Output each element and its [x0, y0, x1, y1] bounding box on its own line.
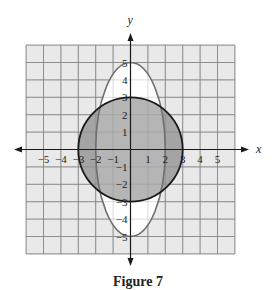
x-tick-label: 2	[163, 153, 169, 165]
y-tick-label: 5	[122, 57, 128, 69]
y-axis-label: y	[127, 13, 134, 27]
y-tick-label: 3	[122, 91, 128, 103]
x-tick-label: 4	[197, 153, 203, 165]
x-tick-label: 1	[145, 153, 151, 165]
y-tick-label: −3	[116, 196, 128, 208]
x-axis-right-arrow-icon	[241, 147, 249, 153]
x-tick-label: 5	[215, 153, 221, 165]
x-tick-label: −3	[72, 153, 84, 165]
x-axis-label: x	[255, 142, 262, 156]
figure-7-graph: xy−5−4−3−2−112345−5−4−3−2−112345	[0, 0, 276, 290]
y-axis-up-arrow-icon	[128, 33, 134, 41]
y-tick-label: −2	[116, 178, 128, 190]
y-tick-label: −1	[116, 161, 128, 173]
x-axis-left-arrow-icon	[14, 147, 22, 153]
y-tick-label: −4	[116, 213, 128, 225]
x-tick-label: −4	[55, 153, 67, 165]
x-tick-label: −5	[38, 153, 50, 165]
x-tick-label: −2	[90, 153, 102, 165]
x-tick-label: 3	[180, 153, 186, 165]
y-tick-label: 1	[122, 126, 128, 138]
y-tick-label: 4	[122, 74, 128, 86]
figure-caption: Figure 7	[0, 274, 276, 290]
y-tick-label: −5	[116, 231, 128, 243]
y-tick-label: 2	[122, 109, 128, 121]
y-axis-down-arrow-icon	[128, 258, 134, 266]
